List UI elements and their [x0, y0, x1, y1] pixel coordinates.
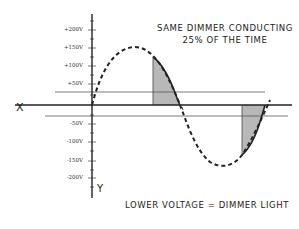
- y-tick-label: -200V: [55, 174, 83, 180]
- x-axis-crossing-mark: [182, 107, 183, 110]
- diagram-title-line-1: SAME DIMMER CONDUCTING: [155, 23, 295, 33]
- y-tick-label: -100V: [55, 138, 83, 144]
- diagram-caption: LOWER VOLTAGE = DIMMER LIGHT: [125, 200, 289, 210]
- y-tick-label: -50V: [55, 120, 83, 126]
- shaded-region-positive: [153, 57, 180, 105]
- dimmer-diagram: SAME DIMMER CONDUCTING 25% OF THE TIME +…: [0, 0, 299, 229]
- y-tick-label: +200V: [55, 26, 83, 32]
- y-tick-label: +100V: [55, 62, 83, 68]
- diagram-title-line-2: 25% OF THE TIME: [155, 35, 295, 45]
- y-tick-label: +150V: [55, 44, 83, 50]
- shaded-region-negative: [242, 105, 265, 155]
- y-tick-label: +50V: [55, 80, 83, 86]
- x-axis-label: X: [16, 101, 24, 114]
- y-tick-label: -150V: [55, 157, 83, 163]
- y-axis-label: Y: [97, 183, 103, 194]
